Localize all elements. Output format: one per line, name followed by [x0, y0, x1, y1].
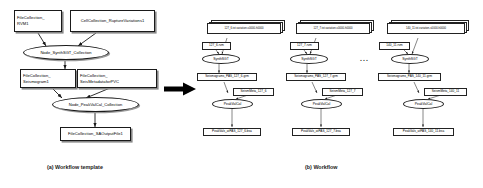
workflow-edges-col1 — [216, 38, 248, 127]
template-node-file-collection-seismogram[interactable]: FileCollection_ Seismogram1 — [20, 69, 76, 88]
template-node-label: CellCollection_RuptureVariations1 — [81, 18, 145, 24]
workflow-ellipsis: ... — [360, 55, 369, 62]
stack-sheet-front: 140_11.txt.variation-s0000-h0000 — [387, 23, 465, 34]
workflow-node-peakvalcal-col1[interactable]: PeakValCal — [212, 99, 253, 109]
node-label: PeakVals_atPAS_127_7.bsa — [301, 130, 341, 133]
node-label: PeakValCal — [415, 102, 432, 106]
node-label: 140_11.rvm — [386, 44, 402, 47]
workflow-node-peakvals-col2[interactable]: PeakVals_atPAS_127_7.bsa — [292, 128, 350, 136]
template-node-label: FileCollection_SAOutputFile1 — [68, 131, 123, 137]
node-label: SynthSGT — [301, 57, 317, 61]
template-node-file-collection-saoutput[interactable]: FileCollection_SAOutputFile1 — [60, 127, 131, 141]
workflow-node-rvm-col3[interactable]: 140_11.rvm — [379, 42, 410, 50]
node-label: Seismograms_PAS_140_11.grm — [387, 75, 432, 78]
workflow-node-peakvals-col1[interactable]: PeakVals_atPAS_127_6.bsa — [203, 128, 261, 136]
workflow-edges-col3 — [404, 38, 441, 127]
workflow-edges-col2 — [304, 38, 337, 127]
panel-transition-arrow — [164, 83, 196, 96]
workflow-node-synthsgt-col3[interactable]: SynthSGT — [391, 54, 429, 64]
template-node-peakvalcal-collection[interactable]: Node_PeakValCal_Collection — [52, 97, 139, 112]
workflow-stack-variation-col2[interactable]: 127_7.txt.variation-s0000-h0000 — [296, 20, 376, 35]
workflow-node-seismograms-col1[interactable]: Seismograms_PAS_127_6.grm — [197, 73, 257, 81]
node-label: PeakVals_atPAS_140_11.bsa — [403, 130, 444, 133]
node-label: Seismograms_PAS_127_7.grm — [294, 75, 338, 78]
stack-label: 127_6.txt.variation-s0000-h0000 — [225, 27, 264, 30]
stack-label: 127_7.txt.variation-s0000-h0000 — [314, 27, 353, 30]
node-label: PeakValCal — [313, 102, 330, 106]
node-label: SynthSGT — [213, 57, 229, 61]
caption-a: (a) Workflow template — [47, 164, 103, 170]
workflow-node-seismograms-col2[interactable]: Seismograms_PAS_127_7.grm — [286, 73, 346, 81]
figure-root: FileCollection_ RVM1 CellCollection_Rupt… — [0, 0, 483, 188]
template-node-cell-collection-rupture[interactable]: CellCollection_RuptureVariations1 — [70, 10, 155, 32]
template-node-label: FileCollection_ Seismogram1 — [23, 73, 51, 84]
workflow-node-peakvals-col3[interactable]: PeakVals_atPAS_140_11.bsa — [393, 128, 454, 136]
node-label: PeakValCal — [224, 102, 241, 106]
workflow-node-peakvalcal-col3[interactable]: PeakValCal — [403, 99, 444, 109]
template-node-synthsgt-collection[interactable]: Node_SynthSGT_Collection — [23, 45, 109, 60]
stack-sheet-front: 127_6.txt.variation-s0000-h0000 — [207, 23, 281, 34]
stack-sheet-front: 127_7.txt.variation-s0000-h0000 — [296, 23, 370, 34]
node-label: SynthSGT — [402, 57, 418, 61]
node-label: SeismMeta_127_7 — [329, 90, 355, 93]
node-label: 127_6.rvm — [209, 44, 224, 47]
caption-b: (b) Workflow — [305, 164, 338, 170]
workflow-node-peakvalcal-col2[interactable]: PeakValCal — [301, 99, 342, 109]
node-label: SeismMeta_140_11 — [432, 90, 460, 93]
template-node-file-collection-rvm[interactable]: FileCollection_ RVM1 — [14, 10, 62, 32]
workflow-node-synthsgt-col1[interactable]: SynthSGT — [202, 54, 240, 64]
workflow-node-seismeta-col3[interactable]: SeismMeta_140_11 — [424, 88, 467, 96]
node-label: Seismograms_PAS_127_6.grm — [205, 75, 249, 78]
stack-label: 140_11.txt.variation-s0000-h0000 — [406, 27, 446, 30]
node-label: 127_7.rvm — [297, 44, 312, 47]
workflow-node-rvm-col1[interactable]: 127_6.rvm — [202, 42, 231, 50]
workflow-node-rvm-col2[interactable]: 127_7.rvm — [290, 42, 319, 50]
workflow-node-synthsgt-col2[interactable]: SynthSGT — [290, 54, 328, 64]
workflow-node-seismeta-col1[interactable]: SeismMeta_127_6 — [233, 88, 274, 96]
workflow-stack-variation-col1[interactable]: 127_6.txt.variation-s0000-h0000 — [207, 20, 287, 35]
workflow-node-seismograms-col3[interactable]: Seismograms_PAS_140_11.grm — [378, 73, 441, 81]
template-node-label: FileCollection_ RVM1 — [17, 15, 45, 26]
workflow-node-seismeta-col2[interactable]: SeismMeta_127_7 — [322, 88, 363, 96]
node-label: PeakVals_atPAS_127_6.bsa — [212, 130, 252, 133]
template-node-label: Node_SynthSGT_Collection — [40, 50, 91, 55]
template-node-label: Node_PeakValCal_Collection — [69, 102, 122, 107]
template-node-file-collection-seismetadata[interactable]: FileCollection_ SeisMetadataforPVC — [77, 69, 157, 88]
node-label: SeismMeta_127_6 — [240, 90, 266, 93]
template-node-label: FileCollection_ SeisMetadataforPVC — [80, 73, 119, 84]
workflow-stack-variation-col3[interactable]: 140_11.txt.variation-s0000-h0000 — [387, 20, 473, 35]
